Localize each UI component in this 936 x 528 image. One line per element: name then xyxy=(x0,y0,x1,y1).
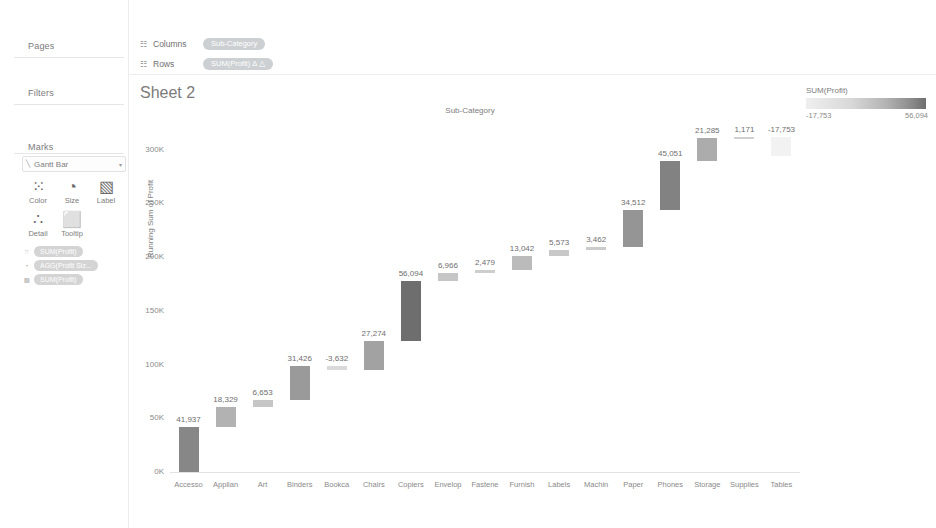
bar-value-label: 31,426 xyxy=(281,354,318,363)
page-title: Sheet 2 xyxy=(140,84,195,102)
bar-value-label: 45,051 xyxy=(652,149,689,158)
x-axis-tick-machin[interactable]: Machin xyxy=(578,480,615,489)
y-axis-tick: 200K xyxy=(145,252,164,261)
x-axis-tick-furnish[interactable]: Furnish xyxy=(504,480,541,489)
tooltip-button[interactable]: ⬜ Tooltip xyxy=(56,212,88,238)
y-axis-tick: 100K xyxy=(145,360,164,369)
x-axis-tick-storage[interactable]: Storage xyxy=(689,480,726,489)
color-button[interactable]: ⁙ Color xyxy=(22,179,54,205)
bar-value-label: 6,966 xyxy=(429,261,466,270)
x-axis-tick-tables[interactable]: Tables xyxy=(763,480,800,489)
marks-pill-row-label[interactable]: ▧ SUM(Profit) xyxy=(22,274,126,285)
marks-divider xyxy=(14,153,124,154)
tooltip-button-label: Tooltip xyxy=(56,229,88,238)
x-axis-tick-labels[interactable]: Labels xyxy=(541,480,578,489)
label-button[interactable]: ▧ Label xyxy=(90,179,122,205)
mark-type-dropdown[interactable]: ╲ Gantt Bar ▾ xyxy=(22,156,126,172)
x-axis-tick-fastene[interactable]: Fastene xyxy=(466,480,503,489)
bar-paper[interactable] xyxy=(623,210,643,247)
marks-button-row-2: ∴ Detail ⬜ Tooltip xyxy=(22,212,126,238)
x-axis-tick-chairs[interactable]: Chairs xyxy=(355,480,392,489)
detail-icon: ∴ xyxy=(22,212,54,227)
gantt-bar-icon: ╲ xyxy=(26,160,30,168)
bar-accesso[interactable] xyxy=(179,427,199,472)
bar-fastene[interactable] xyxy=(475,270,495,273)
marks-card-label: Marks xyxy=(28,142,54,152)
x-axis-tick-art[interactable]: Art xyxy=(244,480,281,489)
x-axis-tick-accesso[interactable]: Accesso xyxy=(170,480,207,489)
filters-shelf-label: Filters xyxy=(28,88,54,98)
rows-shelf[interactable]: ☷ Rows SUM(Profit) Δ △ xyxy=(140,58,273,70)
bar-copiers[interactable] xyxy=(401,281,421,341)
x-axis-tick-applian[interactable]: Applian xyxy=(207,480,244,489)
bar-bookca[interactable] xyxy=(327,366,347,370)
columns-pill-sub-category[interactable]: Sub-Category xyxy=(203,38,265,50)
spacer xyxy=(90,212,122,238)
columns-shelf-label: Columns xyxy=(153,39,197,49)
bar-applian[interactable] xyxy=(216,407,236,427)
marks-pill-color[interactable]: SUM(Profit) xyxy=(34,246,83,257)
x-axis-line xyxy=(170,472,800,473)
label-icon-small: ▧ xyxy=(22,276,31,283)
legend-scale: -17,753 56,094 xyxy=(806,111,928,120)
detail-button-label: Detail xyxy=(22,229,54,238)
legend-gradient-ramp[interactable] xyxy=(806,98,926,109)
bar-tables[interactable] xyxy=(771,137,791,156)
columns-shelf[interactable]: ☷ Columns Sub-Category xyxy=(140,38,265,50)
bar-machin[interactable] xyxy=(586,247,606,251)
color-legend: SUM(Profit) -17,753 56,094 xyxy=(806,86,928,120)
size-button[interactable]: ◔ Size xyxy=(56,179,88,205)
marks-pill-row-size[interactable]: ◔ AGG(Profit Siz... xyxy=(22,260,126,271)
detail-button[interactable]: ∴ Detail xyxy=(22,212,54,238)
x-axis-tick-copiers[interactable]: Copiers xyxy=(392,480,429,489)
marks-pill-label[interactable]: SUM(Profit) xyxy=(34,274,83,285)
bar-value-label: 13,042 xyxy=(504,244,541,253)
x-axis-tick-supplies[interactable]: Supplies xyxy=(726,480,763,489)
x-axis-tick-envelop[interactable]: Envelop xyxy=(429,480,466,489)
tooltip-icon: ⬜ xyxy=(56,212,88,227)
bar-phones[interactable] xyxy=(660,161,680,209)
label-button-label: Label xyxy=(90,196,122,205)
x-axis-tick-paper[interactable]: Paper xyxy=(615,480,652,489)
columns-grid-icon: ☷ xyxy=(140,40,147,49)
pages-shelf-label: Pages xyxy=(28,41,55,51)
bar-art[interactable] xyxy=(253,400,273,407)
shelf-divider xyxy=(128,74,936,75)
panel-separator xyxy=(128,0,129,528)
rows-grid-icon: ☷ xyxy=(140,60,147,69)
bar-chairs[interactable] xyxy=(364,341,384,370)
filters-divider xyxy=(14,104,124,105)
bar-storage[interactable] xyxy=(697,138,717,161)
marks-pill-size[interactable]: AGG(Profit Siz... xyxy=(34,260,98,271)
x-axis-tick-binders[interactable]: Binders xyxy=(281,480,318,489)
bar-value-label: 6,653 xyxy=(244,388,281,397)
y-axis-tick: 50K xyxy=(150,413,164,422)
plot-area: 41,93718,3296,65331,426-3,63227,27456,09… xyxy=(170,128,800,472)
bar-value-label: 2,479 xyxy=(466,258,503,267)
size-icon-small: ◔ xyxy=(22,263,31,269)
bar-value-label: 41,937 xyxy=(170,415,207,424)
pages-divider xyxy=(14,57,124,58)
color-icon: ⁙ xyxy=(22,179,54,194)
bar-supplies[interactable] xyxy=(734,137,754,139)
marks-pill-row-color[interactable]: ⁙ SUM(Profit) xyxy=(22,246,126,257)
y-axis-tick: 250K xyxy=(145,198,164,207)
rows-pill-sum-profit[interactable]: SUM(Profit) Δ △ xyxy=(203,58,273,70)
bar-value-label: 27,274 xyxy=(355,329,392,338)
mark-type-label: Gantt Bar xyxy=(34,160,115,169)
x-axis-tick-bookca[interactable]: Bookca xyxy=(318,480,355,489)
bar-value-label: 18,329 xyxy=(207,395,244,404)
bar-binders[interactable] xyxy=(290,366,310,400)
y-axis-tick: 0K xyxy=(154,467,164,476)
x-axis-tick-phones[interactable]: Phones xyxy=(652,480,689,489)
bar-furnish[interactable] xyxy=(512,256,532,270)
bar-envelop[interactable] xyxy=(438,273,458,280)
size-button-label: Size xyxy=(56,196,88,205)
marks-card: ╲ Gantt Bar ▾ ⁙ Color ◔ Size ▧ Label xyxy=(22,156,126,285)
label-icon: ▧ xyxy=(90,179,122,194)
left-panel: Pages Filters Marks ╲ Gantt Bar ▾ ⁙ Colo… xyxy=(0,0,128,528)
color-icon-small: ⁙ xyxy=(22,248,31,255)
marks-pill-list: ⁙ SUM(Profit) ◔ AGG(Profit Siz... ▧ SUM(… xyxy=(22,246,126,285)
column-header-sub-category: Sub-Category xyxy=(140,106,800,115)
bar-labels[interactable] xyxy=(549,250,569,256)
